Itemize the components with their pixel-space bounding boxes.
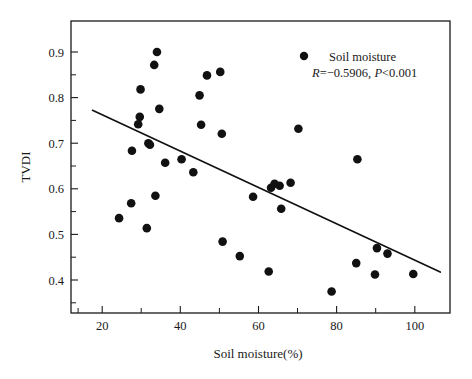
data-point [151,191,160,200]
legend-entry-label: Soil moisture [329,50,396,64]
data-point [134,120,143,129]
y-tick-label-0.4: 0.4 [48,274,64,288]
data-point [155,105,164,114]
r-value: =−0.5906, [320,66,375,80]
p-symbol: P [373,66,382,80]
x-tick-label-40: 40 [174,319,187,333]
r-symbol: R [311,66,320,80]
data-point [150,61,159,70]
data-point [294,125,303,134]
y-tick-label-0.6: 0.6 [48,182,64,196]
data-point [371,270,380,279]
correlation-annotation: R=−0.5906, P<0.001 [311,66,417,80]
x-axis-major-ticks [102,306,415,313]
data-point [128,146,137,155]
legend-marker-icon [300,52,308,60]
x-axis-title: Soil moisture(%) [213,346,302,361]
x-tick-label-20: 20 [96,319,109,333]
data-point [353,155,362,164]
y-tick-label-0.9: 0.9 [48,46,64,60]
data-point [203,71,212,80]
data-point [197,121,206,130]
data-point [383,249,392,258]
data-point [249,192,258,201]
data-point [143,224,152,233]
data-point [409,270,418,279]
chart-page: 0.9 0.8 0.7 0.6 0.5 0.4 20 40 60 80 100 … [0,0,472,379]
data-point [264,267,273,276]
data-point [275,181,284,190]
y-tick-label-0.5: 0.5 [48,228,64,242]
data-point [136,85,145,94]
data-point [127,199,136,208]
y-axis-title: TVDI [18,151,33,182]
data-point-group [115,48,418,296]
y-tick-label-0.7: 0.7 [48,137,64,151]
data-point [153,48,162,57]
x-tick-label-100: 100 [405,319,424,333]
x-axis-minor-ticks [78,308,376,313]
data-point [216,68,225,77]
data-point [286,178,295,187]
legend: Soil moisture R=−0.5906, P<0.001 [300,50,417,80]
data-point [115,214,124,223]
data-point [373,244,382,253]
y-tick-label-0.8: 0.8 [48,91,64,105]
data-point [218,130,227,139]
data-point [277,204,286,213]
x-tick-label-60: 60 [252,319,265,333]
p-value: <0.001 [382,66,417,80]
data-point [189,168,198,177]
regression-line [92,110,440,272]
data-point [146,140,155,149]
data-point [235,252,244,261]
scatter-plot: 0.9 0.8 0.7 0.6 0.5 0.4 20 40 60 80 100 … [0,0,472,379]
data-point [195,91,204,100]
data-point [135,113,144,122]
data-point [327,287,336,296]
data-point [352,259,361,268]
x-tick-label-80: 80 [330,319,343,333]
data-point [218,237,227,246]
data-point [177,155,186,164]
data-point [161,158,170,167]
